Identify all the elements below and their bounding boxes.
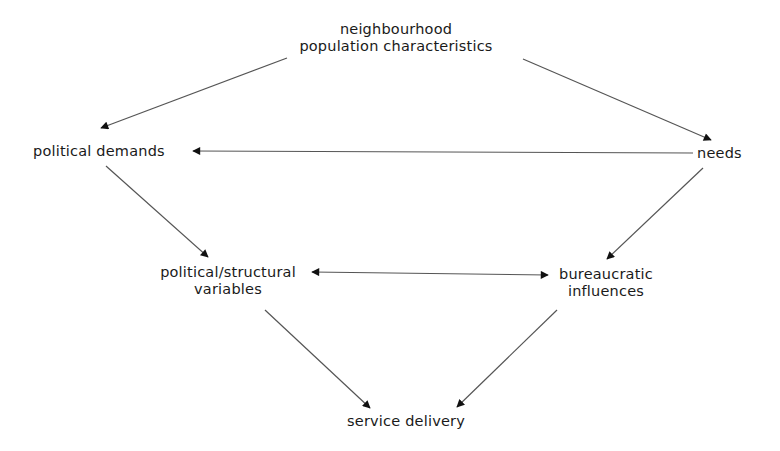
edge-bureaucratic-to-service-delivery (457, 310, 557, 407)
node-service-delivery: service delivery (336, 413, 476, 430)
node-political-structural-variables: political/structural variables (146, 264, 310, 298)
edge-political-demands-to-political-structural (106, 166, 208, 257)
node-label-line: political demands (33, 143, 185, 160)
node-label-line: variables (146, 281, 310, 298)
edge-population-to-needs (523, 59, 711, 140)
edge-population-to-political-demands (101, 58, 287, 128)
node-needs: needs (697, 145, 757, 162)
node-label-line: population characteristics (296, 38, 496, 55)
node-label-line: political/structural (146, 264, 310, 281)
edge-needs-to-bureaucratic (607, 168, 703, 259)
node-label-line: service delivery (336, 413, 476, 430)
edge-needs-to-political-demands (193, 151, 693, 153)
node-political-demands: political demands (33, 143, 185, 160)
node-label-line: neighbourhood (296, 21, 496, 38)
node-label-line: influences (550, 283, 662, 300)
node-label-line: bureaucratic (550, 266, 662, 283)
diagram-canvas: neighbourhood population characteristics… (0, 0, 780, 451)
node-label-line: needs (697, 145, 757, 162)
node-population-characteristics: neighbourhood population characteristics (296, 21, 496, 55)
edge-political-structural-bureaucratic (312, 272, 548, 275)
edges-layer (0, 0, 780, 451)
edge-political-structural-to-service-delivery (265, 310, 370, 408)
node-bureaucratic-influences: bureaucratic influences (550, 266, 662, 300)
